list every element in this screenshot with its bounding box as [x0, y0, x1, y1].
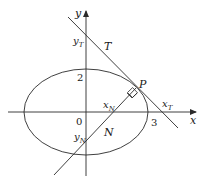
x-axis-label: x [190, 114, 197, 127]
tangent-line [68, 17, 178, 128]
tangent-x-intercept-label: xT [162, 98, 174, 112]
ellipse-diagram: y x 0 3 2 T P N yT xT xN yN [0, 0, 203, 180]
normal-line [54, 88, 136, 175]
normal-x-intercept-label: xN [103, 99, 116, 113]
ellipse-y-intercept-label: 2 [77, 72, 83, 83]
tangent-label: T [104, 40, 113, 53]
normal-y-intercept-label: yN [73, 131, 87, 145]
tangent-y-intercept-label: yT [72, 35, 85, 49]
normal-label: N [103, 126, 114, 139]
point-p-label: P [138, 78, 147, 91]
y-axis-label: y [74, 7, 82, 20]
origin-label: 0 [76, 116, 82, 127]
ellipse-x-intercept-label: 3 [151, 117, 157, 128]
